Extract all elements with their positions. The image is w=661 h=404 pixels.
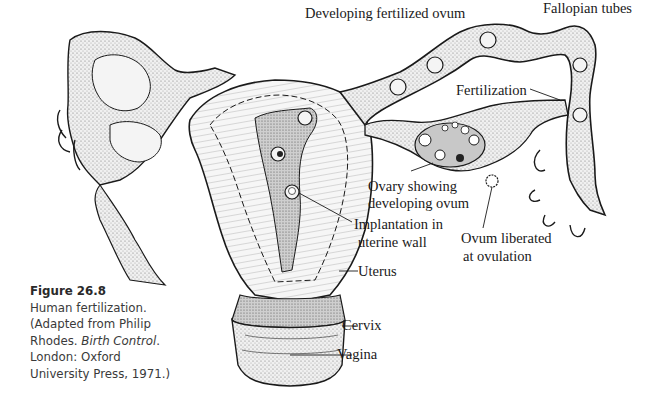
label-ovary-2: developing ovum bbox=[368, 195, 469, 212]
caption-book-title: Birth Control bbox=[81, 334, 156, 348]
label-uterus: Uterus bbox=[358, 263, 397, 280]
label-ovum-liberated-2: at ovulation bbox=[463, 248, 532, 265]
caption-line: London: Oxford bbox=[30, 349, 170, 366]
label-vagina: Vagina bbox=[337, 346, 377, 363]
right-ovary bbox=[365, 100, 568, 187]
caption-text: Rhodes. bbox=[30, 334, 81, 348]
label-ovum-liberated-1: Ovum liberated bbox=[461, 230, 552, 247]
uterus bbox=[189, 80, 372, 300]
caption-line: University Press, 1971.) bbox=[30, 366, 170, 383]
anatomy-diagram: Developing fertilized ovum Fallopian tub… bbox=[0, 0, 661, 404]
label-implantation-2: uterine wall bbox=[358, 234, 427, 251]
caption-line: (Adapted from Philip bbox=[30, 316, 170, 333]
cervix-vagina bbox=[232, 295, 345, 386]
caption-text: . bbox=[156, 334, 160, 348]
label-fertilization: Fertilization bbox=[456, 82, 527, 99]
label-fallopian-tubes: Fallopian tubes bbox=[543, 0, 632, 17]
caption-line: Rhodes. Birth Control. bbox=[30, 333, 170, 350]
label-implantation-1: Implantation in bbox=[354, 216, 443, 233]
figure-caption: Figure 26.8 Human fertilization. (Adapte… bbox=[30, 283, 170, 383]
label-ovary-1: Ovary showing bbox=[368, 178, 457, 195]
figure-number: Figure 26.8 bbox=[30, 283, 170, 300]
caption-line: Human fertilization. bbox=[30, 300, 170, 317]
label-developing-fertilized-ovum: Developing fertilized ovum bbox=[305, 5, 465, 22]
label-cervix: Cervix bbox=[342, 317, 381, 334]
